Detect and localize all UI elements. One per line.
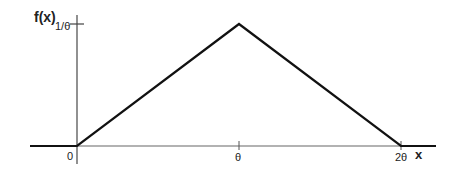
x-axis-label: x: [415, 147, 423, 162]
x-tick-label-theta: θ: [235, 151, 241, 163]
x-tick-label-zero: 0: [67, 150, 73, 162]
triangular-density-chart: f(x) 1/θ 0 θ 2θ x: [0, 0, 459, 178]
y-tick-label-peak: 1/θ: [55, 20, 70, 32]
x-tick-label-two-theta: 2θ: [395, 151, 407, 163]
density-curve: [30, 24, 436, 146]
y-axis-label: f(x): [34, 9, 56, 25]
